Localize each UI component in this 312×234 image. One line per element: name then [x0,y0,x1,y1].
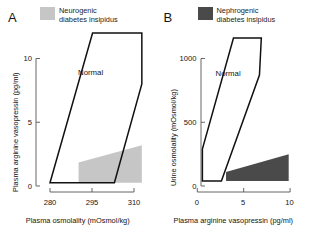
panel-a-x-axis-title: Plasma osmolality (mOsmol/kg) [0,216,156,225]
panel-b-x-tick-label: 10 [270,198,310,207]
panel-b-normal-region-outline [202,38,261,181]
panel-a-normal-region-label: Normal [78,68,103,77]
panel-b-shaded-region [226,154,289,181]
panel-b-y-axis-title: Urine osmolality (mOsmol/kg) [169,89,178,186]
panel-a: A Neurogenic diabetes insipidus Normal P… [0,0,156,234]
panel-b-y-tick-label: 1000 [159,54,197,63]
panel-b-x-tick-label: 0 [177,198,217,207]
panel-a-shaded-region [79,145,142,183]
panel-a-y-tick-label: 0 [0,182,32,191]
panel-b-y-tick-label: 0 [159,182,197,191]
panel-a-x-tick-label: 310 [114,198,154,207]
panel-a-y-tick-label: 5 [0,118,32,127]
panel-a-x-tick-label: 280 [30,198,70,207]
panel-a-x-tick-label: 295 [72,198,112,207]
panel-a-y-axis-title: Plasma arginine vasopressin (pg/ml) [11,72,20,192]
panel-b-normal-region-label: Normal [216,69,241,78]
panel-b-x-tick-label: 5 [223,198,263,207]
panel-b-y-tick-label: 500 [159,118,197,127]
panel-a-y-tick-label: 10 [0,54,32,63]
panel-b-x-axis-title: Plasma arginine vasopressin (pg/ml) [156,216,312,225]
panel-b: B Nephrogenic diabetes insipidus Normal … [156,0,312,234]
figure-container: A Neurogenic diabetes insipidus Normal P… [0,0,311,234]
